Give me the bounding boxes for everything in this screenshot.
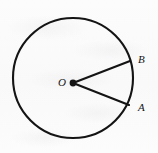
circle-diagram-canvas — [0, 0, 158, 153]
radius-OA-line — [73, 83, 129, 105]
label-point-b: B — [138, 54, 145, 65]
center-point-dot — [70, 80, 77, 87]
geometry-figure: O B A — [0, 0, 158, 153]
radius-OB-line — [73, 61, 130, 83]
label-point-a: A — [138, 102, 145, 113]
label-center-o: O — [58, 77, 66, 88]
circle-outline — [13, 18, 133, 138]
